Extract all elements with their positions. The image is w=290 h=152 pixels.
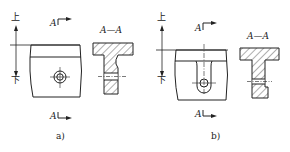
section-marker-bottom-label-b: A (195, 110, 202, 119)
up-label-a: 上 (11, 13, 20, 22)
section-marker-top-label-b: A (195, 24, 202, 33)
section-view-a (93, 43, 133, 94)
up-down-arrow-a (14, 25, 18, 77)
slot-with-hole-b (192, 44, 216, 95)
section-marker-bottom-b (203, 110, 217, 118)
caption-b: b) (211, 132, 220, 141)
block-front-view-a (30, 45, 82, 97)
section-marker-top-a (58, 17, 72, 25)
up-down-arrow-b (160, 25, 164, 77)
section-marker-bottom-label-a: A (50, 112, 57, 121)
section-title-b: A—A (247, 32, 269, 41)
caption-a: a) (56, 132, 65, 141)
section-marker-top-label-a: A (50, 19, 57, 28)
up-label-b: 上 (157, 13, 166, 22)
down-label-a: 下 (11, 76, 20, 85)
section-title-a: A—A (100, 26, 122, 35)
section-view-b (240, 48, 279, 98)
section-marker-bottom-a (58, 112, 72, 120)
down-label-b: 下 (157, 76, 166, 85)
drawing-canvas (0, 0, 290, 152)
counterbored-hole-a (50, 67, 70, 88)
section-marker-top-b (203, 21, 217, 30)
